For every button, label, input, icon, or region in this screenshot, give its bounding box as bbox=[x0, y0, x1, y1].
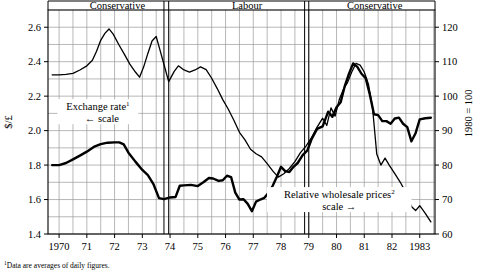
y-axis-label-left-0: 1.4 bbox=[28, 229, 42, 240]
y-axis-title-right: 1980 = 100 bbox=[463, 89, 474, 137]
y-axis-label-right-4: 100 bbox=[442, 91, 458, 102]
exchange-rate-label-footnote-marker: 1 bbox=[126, 100, 130, 108]
period-band-label-2: Conservative bbox=[347, 0, 403, 11]
x-axis-label-11: 81 bbox=[359, 241, 370, 252]
x-axis-label-5: 75 bbox=[193, 241, 204, 252]
period-band-label-0: Conservative bbox=[90, 0, 146, 11]
y-axis-label-right-5: 110 bbox=[442, 56, 457, 67]
x-axis-label-6: 76 bbox=[220, 241, 231, 252]
exchange-rate-label: Exchange rate1← scale bbox=[57, 99, 138, 124]
x-axis-label-10: 80 bbox=[331, 241, 342, 252]
x-axis-label-13: 1983 bbox=[409, 241, 430, 252]
x-axis-label-9: 79 bbox=[304, 241, 315, 252]
x-axis-label-8: 78 bbox=[276, 241, 287, 252]
y-axis-label-left-4: 2.2 bbox=[28, 91, 41, 102]
x-axis-label-12: 82 bbox=[387, 241, 398, 252]
exchange-rate-label-text: Exchange rate1 bbox=[66, 100, 130, 112]
y-axis-label-left-2: 1.8 bbox=[28, 160, 41, 171]
period-band-label-1: Labour bbox=[232, 0, 263, 11]
x-axis-label-2: 72 bbox=[109, 241, 120, 252]
footnote-0: 1Data are averages of daily figures. bbox=[4, 260, 110, 270]
y-axis-label-left-6: 2.6 bbox=[28, 22, 41, 33]
x-axis-label-4: 74 bbox=[165, 241, 176, 252]
wholesale-prices-label: Relative wholesale prices2scale → bbox=[267, 187, 412, 212]
wholesale-prices-label-text: Relative wholesale prices2 bbox=[284, 188, 395, 200]
y-axis-label-left-3: 2.0 bbox=[28, 125, 41, 136]
exchange-rate-label-scale-pointer: ← scale bbox=[85, 113, 119, 124]
footnote-marker-0: 1 bbox=[4, 260, 7, 266]
x-axis-label-7: 77 bbox=[248, 241, 259, 252]
y-axis-label-left-1: 1.6 bbox=[28, 194, 41, 205]
y-axis-title-left: $/£ bbox=[3, 115, 14, 128]
y-axis-label-right-1: 70 bbox=[442, 194, 453, 205]
x-axis-label-1: 71 bbox=[82, 241, 93, 252]
wholesale-prices-label-footnote-marker: 2 bbox=[391, 188, 395, 196]
chart-svg: ConservativeLabourConservative1.41.61.82… bbox=[0, 0, 482, 274]
y-axis-label-right-0: 60 bbox=[442, 229, 453, 240]
y-axis-label-right-2: 80 bbox=[442, 160, 453, 171]
chart-container: ConservativeLabourConservative1.41.61.82… bbox=[0, 0, 482, 274]
wholesale-prices-label-scale-pointer: scale → bbox=[322, 201, 356, 212]
y-axis-label-right-3: 90 bbox=[442, 125, 453, 136]
x-axis-label-0: 1970 bbox=[49, 241, 70, 252]
x-axis-label-3: 73 bbox=[137, 241, 148, 252]
y-axis-label-left-5: 2.4 bbox=[28, 56, 42, 67]
y-axis-label-right-6: 120 bbox=[442, 22, 458, 33]
